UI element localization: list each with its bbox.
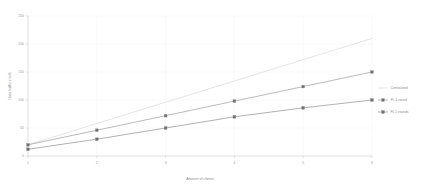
legend-label[interactable]: FL 1 round (391, 98, 407, 102)
y-tick-label: 50 (20, 126, 24, 130)
y-tick-label: 0 (22, 154, 24, 158)
x-tick-label: 1 (27, 161, 29, 165)
data-point-marker (27, 143, 30, 146)
legend-label[interactable]: Centralized (391, 86, 408, 90)
data-point-marker (371, 71, 374, 74)
data-point-marker (302, 85, 305, 88)
data-point-marker (302, 106, 305, 109)
data-point-marker (27, 148, 30, 151)
legend-swatch-marker (382, 99, 385, 102)
line-chart: 050100150200250 123456 Amount of clients… (0, 0, 422, 189)
data-point-marker (233, 115, 236, 118)
x-axis-title: Amount of clients (186, 177, 214, 181)
x-tick-label: 3 (165, 161, 167, 165)
legend-label[interactable]: FL 2 rounds (391, 110, 409, 114)
x-tick-label: 2 (96, 161, 98, 165)
chart-background (0, 0, 422, 189)
data-point-marker (164, 127, 167, 130)
x-tick-label: 4 (233, 161, 235, 165)
data-point-marker (233, 100, 236, 103)
y-tick-label: 250 (18, 14, 24, 18)
y-tick-label: 150 (18, 70, 24, 74)
data-point-marker (95, 138, 98, 141)
legend-swatch-marker (382, 111, 385, 114)
data-point-marker (95, 129, 98, 132)
x-tick-label: 5 (302, 161, 304, 165)
y-tick-label: 200 (18, 42, 24, 46)
x-tick-label: 6 (371, 161, 373, 165)
y-tick-label: 100 (18, 98, 24, 102)
data-point-marker (164, 114, 167, 117)
chart-container: 050100150200250 123456 Amount of clients… (0, 0, 422, 189)
y-axis-title: Data traffic in kiB (8, 72, 12, 100)
data-point-marker (371, 99, 374, 102)
